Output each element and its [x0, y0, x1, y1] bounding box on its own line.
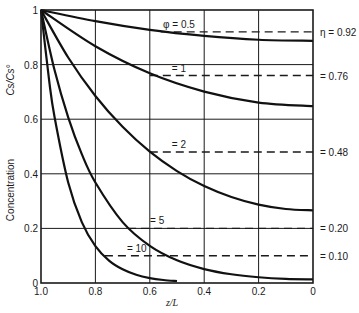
eta-value-label: = 0.76: [320, 71, 349, 82]
x-tick-label: 0.2: [252, 286, 266, 297]
curve-labels: η = 0.92φ = 0.5= 0.76= 1= 0.48= 2= 0.20=…: [127, 19, 357, 262]
x-axis-ticks: 1.00.80.60.40.20: [34, 286, 316, 297]
phi-label: φ = 0.5: [163, 19, 195, 30]
concentration-profile-chart: 00.20.40.60.81 1.00.80.60.40.20 η = 0.92…: [0, 0, 359, 313]
x-axis-label: z/L: [165, 297, 179, 308]
eta-value-label: = 0.48: [320, 147, 349, 158]
x-tick-label: 0.4: [197, 286, 211, 297]
y-tick-label: 0.8: [24, 60, 38, 71]
phi-label: = 2: [172, 139, 187, 150]
y-tick-label: 0.6: [24, 114, 38, 125]
x-tick-label: 1.0: [34, 286, 48, 297]
x-tick-label: 0.8: [88, 286, 102, 297]
y-tick-label: 0.4: [24, 169, 38, 180]
y-tick-label: 1: [32, 5, 38, 16]
eta-value-label: η = 0.92: [320, 27, 357, 38]
curve-10: [41, 10, 177, 281]
effectiveness-dashed-lines: [105, 32, 313, 256]
phi-label: = 1: [172, 63, 187, 74]
phi-label: = 5: [150, 215, 165, 226]
y-axis-symbol: Cs/Cs°: [5, 64, 16, 95]
eta-value-label: = 0.20: [320, 223, 349, 234]
x-tick-label: 0: [310, 286, 316, 297]
eta-value-label: = 0.10: [320, 251, 349, 262]
y-axis-label: Concentration: [5, 159, 16, 221]
y-tick-label: 0.2: [24, 223, 38, 234]
x-tick-label: 0.6: [143, 286, 157, 297]
y-axis-ticks: 00.20.40.60.81: [24, 5, 38, 289]
phi-label: = 10: [127, 243, 147, 254]
